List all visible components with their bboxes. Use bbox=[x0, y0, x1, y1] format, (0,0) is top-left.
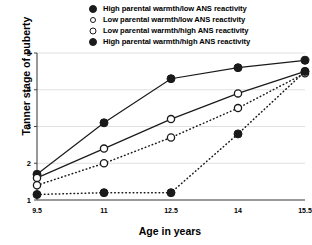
chart-figure: High parental warmth/low ANS reactivity … bbox=[0, 0, 312, 245]
data-point-marker bbox=[100, 160, 107, 167]
x-tick-label: 11 bbox=[87, 207, 121, 214]
x-tick-label: 9.5 bbox=[20, 207, 54, 214]
x-tick-label: 14 bbox=[221, 207, 255, 214]
y-tick-label: 3 bbox=[13, 123, 31, 130]
data-point-marker bbox=[100, 145, 107, 152]
y-tick-label: 4 bbox=[13, 86, 31, 93]
y-tick-label: 1 bbox=[13, 197, 31, 204]
data-point-marker bbox=[234, 105, 241, 112]
data-point-marker bbox=[100, 189, 108, 197]
data-point-marker bbox=[33, 174, 40, 181]
data-point-marker bbox=[33, 191, 41, 199]
data-point-marker bbox=[167, 134, 174, 141]
data-point-marker bbox=[301, 67, 309, 75]
data-point-marker bbox=[234, 130, 242, 138]
y-tick-label: 2 bbox=[13, 160, 31, 167]
data-point-marker bbox=[167, 189, 175, 197]
series-line bbox=[37, 71, 305, 177]
x-tick-label: 12.5 bbox=[154, 207, 188, 214]
data-point-marker bbox=[234, 64, 242, 72]
data-point-marker bbox=[33, 182, 40, 189]
x-tick-label: 15.5 bbox=[288, 207, 312, 214]
data-point-marker bbox=[234, 90, 241, 97]
data-point-marker bbox=[167, 116, 174, 123]
data-point-marker bbox=[100, 119, 108, 127]
y-tick-label: 5 bbox=[13, 50, 31, 57]
data-point-marker bbox=[167, 75, 175, 83]
data-point-marker bbox=[301, 56, 309, 64]
